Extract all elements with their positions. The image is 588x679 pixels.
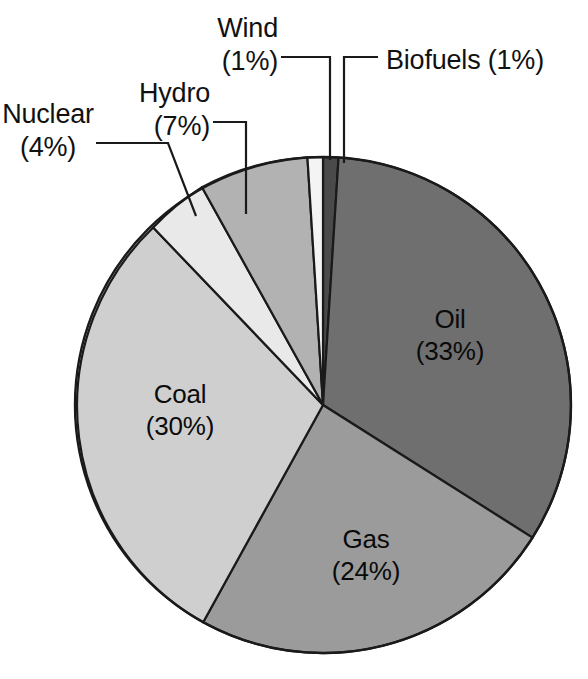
- slice-label-gas-percent: (24%): [296, 555, 436, 587]
- leader-line-biofuels: [344, 57, 378, 163]
- callout-label-nuclear: Nuclear (4%): [2, 98, 94, 164]
- callout-label-biofuels-text: Biofuels (1%): [386, 44, 586, 77]
- callout-label-wind-percent: (1%): [118, 45, 278, 78]
- slice-label-gas-name: Gas: [296, 523, 436, 555]
- callout-label-biofuels: Biofuels (1%): [386, 44, 586, 77]
- slice-label-coal-name: Coal: [110, 378, 250, 410]
- slice-label-coal-percent: (30%): [110, 410, 250, 442]
- callout-label-wind: Wind (1%): [118, 12, 278, 78]
- leader-line-wind: [281, 57, 330, 160]
- pie-chart-figure: Wind (1%) Biofuels (1%) Hydro (7%) Nucle…: [0, 0, 588, 679]
- callout-label-nuclear-percent: (4%): [2, 131, 94, 164]
- slice-label-oil-name: Oil: [380, 303, 520, 335]
- callout-label-nuclear-name: Nuclear: [2, 98, 94, 131]
- slice-label-gas: Gas (24%): [296, 523, 436, 587]
- slice-label-coal: Coal (30%): [110, 378, 250, 442]
- callout-label-wind-name: Wind: [118, 12, 278, 45]
- slice-label-oil: Oil (33%): [380, 303, 520, 367]
- slice-label-oil-percent: (33%): [380, 335, 520, 367]
